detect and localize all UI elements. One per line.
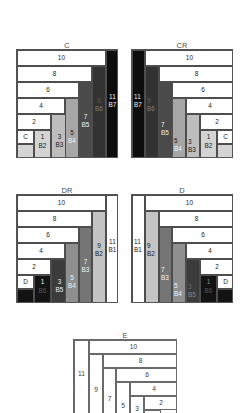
bar-sub-label: B2 [93,251,105,258]
row-label: 2 [18,264,50,271]
bar-top-label: C [218,134,233,141]
bar-sub-label: B3 [161,275,169,282]
row-bar: 10 [89,340,177,354]
bar-c-seed: C [17,130,34,144]
row-label: 4 [18,248,64,255]
bar-e-9: 9 [89,354,103,413]
bar-top-label: 7 [161,267,165,274]
bar-top-label: 1 [201,279,216,286]
row-bar: 6 [17,82,79,98]
bar-c-b2: 1 B2 [34,130,51,158]
row-label: 10 [18,200,105,207]
row-bar: 10 [145,50,233,66]
bar-d-b5: 3 B5 [186,259,200,303]
row-bar: 10 [145,195,233,211]
bar-d-b4: 5 B4 [172,243,186,303]
panel-cr-plot: 10 8 6 4 2 11 B7 9 B6 [131,49,233,158]
bar-top-label: 11 [134,94,141,101]
row-bar: 8 [103,354,177,368]
bar-top-label: 3 [188,284,192,291]
bar-e-3: 3 [130,396,144,413]
bar-sub-label: B6 [35,288,50,295]
bar-d-b1: 11 B1 [132,195,145,303]
bar-d-b2: 9 B2 [145,211,159,303]
bar-top-label: 1 [35,279,50,286]
bar-top-label: D [18,279,33,286]
row-bar: 6 [172,227,233,243]
bar-sub-label: B2 [201,143,216,150]
bar-top-label: 5 [66,130,78,137]
bar-e-7: 7 [103,368,116,413]
bar-c-1 [17,144,34,158]
row-bar: 10 [17,195,106,211]
panel-c-plot: 10 8 6 4 2 C 1 B2 3 [16,49,118,158]
bar-top-label: 7 [161,122,165,129]
bar-top-label: D [218,279,233,286]
row-label: 10 [18,55,105,62]
bar-sub-label: B2 [147,251,155,258]
figure-canvas: C Make 16 10 8 6 4 2 C [0,0,250,413]
bar-c-b5: 7 B5 [79,82,92,158]
panel-cr: CR Make 16 10 8 6 4 2 11 B7 [131,26,233,158]
row-label: 6 [18,232,78,239]
bar-sub-label: B3 [80,267,91,274]
bar-top-label: 9 [147,243,151,250]
bar-top-label: 7 [80,114,91,121]
bar-top-label: 9 [90,387,102,394]
bar-sub-label: B6 [201,288,216,295]
bar-top-label: 1 [35,134,50,141]
bar-d-b3: 7 B3 [159,227,172,303]
bar-d-b6: 1 B6 [200,275,217,303]
bar-top-label: 5 [174,283,178,290]
row-label: 10 [146,55,233,62]
bar-top-label: 5 [66,275,78,282]
bar-sub-label: B5 [80,122,91,129]
row-label: 10 [146,200,233,207]
row-bar: 6 [172,82,233,98]
row-label: 8 [18,71,91,78]
bar-cr-b7: 11 B7 [132,50,145,158]
row-bar: 2 [144,396,177,410]
row-bar: 2 [17,114,51,130]
row-label: 8 [160,71,233,78]
row-label: 8 [104,358,177,365]
bar-sub-label: B4 [66,138,78,145]
row-label: 2 [145,400,177,407]
bar-sub-label: B4 [174,146,182,153]
row-bar: 6 [116,368,177,382]
bar-top-label: 1 [201,134,216,141]
panel-dr: DR Make 16 10 8 6 4 2 D 1 [16,171,118,303]
bar-dr-b1: 11 B1 [106,195,118,303]
row-label: 4 [187,248,233,255]
row-label: 6 [117,372,177,379]
bar-sub-label: B1 [134,247,142,254]
bar-c-b7: 11 B7 [106,50,118,158]
row-bar: 4 [186,98,233,114]
bar-sub-label: B2 [35,143,50,150]
bar-e-5: 5 [116,382,130,413]
bar-top-label: 7 [80,259,91,266]
bar-cr-b4: 5 B4 [172,98,186,158]
bar-top-label: 11 [107,94,118,101]
bar-top-label: 7 [104,396,115,403]
row-label: 2 [201,119,233,126]
bar-top-label: 11 [107,239,118,246]
bar-top-label: 5 [174,138,178,145]
bar-top-label: C [18,134,33,141]
bar-dr-seed: D [17,275,34,289]
bar-top-label: 3 [188,139,192,146]
row-label: 6 [173,232,233,239]
bar-sub-label: B5 [161,130,169,137]
bar-sub-label: B5 [188,292,196,299]
row-label: 2 [18,119,50,126]
bar-dr-b6: 1 B6 [34,275,51,303]
bar-cr-b3: 3 B3 [186,114,200,158]
row-bar: 10 [17,50,106,66]
panel-dr-plot: 10 8 6 4 2 D 1 B6 3 [16,194,118,303]
bar-top-label: 3 [131,406,143,413]
panel-d-plot: 10 8 6 4 2 11 B1 9 B2 7 [131,194,233,303]
bar-cr-b2: 1 B2 [200,130,217,158]
row-label: 4 [18,103,64,110]
row-label: 10 [90,344,177,351]
row-bar: 4 [17,98,65,114]
